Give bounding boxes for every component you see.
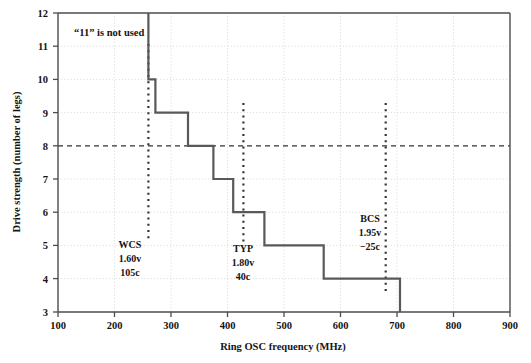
x-tick-label-200: 200 — [107, 320, 123, 331]
y-tick-label-5: 5 — [43, 240, 48, 251]
x-axis-ticks — [58, 312, 510, 317]
x-tick-label-500: 500 — [276, 320, 292, 331]
typ-label: TYP — [233, 243, 253, 254]
x-axis-title: Ring OSC frequency (MHz) — [220, 341, 346, 353]
y-tick-label-12: 12 — [38, 8, 49, 19]
x-tick-label-800: 800 — [446, 320, 462, 331]
bcs-label: BCS — [360, 213, 380, 224]
y-tick-label-3: 3 — [43, 307, 48, 318]
y-axis-ticks — [53, 13, 58, 312]
y-axis-title: Drive strength (number of legs) — [11, 91, 23, 232]
x-tick-label-100: 100 — [50, 320, 66, 331]
x-tick-label-600: 600 — [333, 320, 349, 331]
y-tick-label-10: 10 — [38, 74, 49, 85]
typ-temperature: 40c — [236, 271, 251, 282]
y-tick-label-6: 6 — [43, 207, 48, 218]
bcs-voltage: 1.95v — [359, 227, 382, 238]
wcs-temperature: 105c — [120, 267, 140, 278]
chart-container: 12 11 10 9 8 7 6 5 4 3 100 200 300 400 5… — [0, 0, 531, 363]
x-tick-label-300: 300 — [163, 320, 179, 331]
annotation-11-not-used: “11” is not used — [74, 27, 144, 38]
x-tick-label-700: 700 — [389, 320, 405, 331]
typ-voltage: 1.80v — [232, 257, 255, 268]
x-tick-label-900: 900 — [502, 320, 518, 331]
y-tick-label-4: 4 — [43, 274, 49, 285]
y-tick-label-11: 11 — [38, 41, 48, 52]
y-tick-label-8: 8 — [43, 141, 48, 152]
bcs-temperature: −25c — [360, 241, 381, 252]
wcs-voltage: 1.60v — [119, 253, 142, 264]
wcs-label: WCS — [119, 239, 142, 250]
y-tick-label-7: 7 — [43, 174, 48, 185]
drive-strength-vs-frequency-chart: 12 11 10 9 8 7 6 5 4 3 100 200 300 400 5… — [0, 0, 531, 363]
y-tick-label-9: 9 — [43, 108, 48, 119]
x-tick-label-400: 400 — [220, 320, 236, 331]
